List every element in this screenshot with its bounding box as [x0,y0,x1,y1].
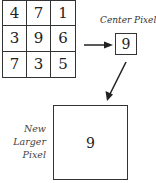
grid-cell: 7 [27,1,51,26]
label-line: Larger [0,135,46,148]
grid-cell: 3 [3,26,27,51]
pixel-grid-3x3: 4 7 1 3 9 6 7 3 5 [2,0,76,78]
label-line: New [0,122,46,135]
grid-cell-center: 9 [27,26,51,51]
new-larger-pixel-label: New Larger Pixel [0,122,46,161]
grid-cell: 7 [3,52,27,77]
right-arrow-icon [84,42,113,49]
new-larger-pixel-box: 9 [53,105,128,180]
grid-cell: 4 [3,1,27,26]
center-pixel-value: 9 [122,36,131,52]
grid-cell: 1 [51,1,75,26]
grid-cell: 5 [51,52,75,77]
new-pixel-value: 9 [86,135,95,151]
center-pixel-box: 9 [115,33,137,55]
grid-cell: 3 [27,52,51,77]
grid-cell: 6 [51,26,75,51]
center-pixel-label: Center Pixel [100,15,156,25]
label-line: Pixel [0,148,46,161]
down-left-arrow-icon [106,62,127,101]
